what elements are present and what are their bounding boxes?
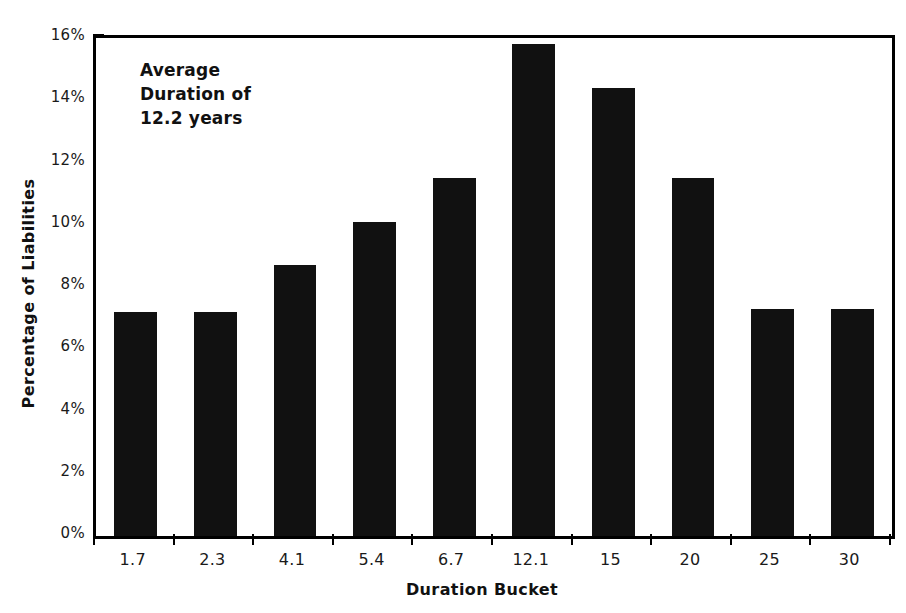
bar <box>274 265 317 536</box>
y-axis-tick-label: 8% <box>61 275 85 293</box>
bar <box>194 312 237 536</box>
x-axis-tick-mark <box>650 534 652 545</box>
annotation-line: 12.2 years <box>140 106 251 130</box>
bar <box>353 222 396 536</box>
x-axis-tick-mark <box>173 534 175 545</box>
y-axis-tick-label: 12% <box>51 151 85 169</box>
x-axis-tick-label: 20 <box>680 550 701 569</box>
annotation-line: Duration of <box>140 82 251 106</box>
x-axis-tick-mark <box>252 534 254 545</box>
x-axis-tick-label: 6.7 <box>438 550 464 569</box>
bar <box>433 178 476 536</box>
bar <box>512 44 555 536</box>
x-axis-tick-label: 15 <box>600 550 621 569</box>
annotation-line: Average <box>140 58 251 82</box>
y-axis-tick-label: 4% <box>61 400 85 418</box>
x-axis-tick-mark <box>332 534 334 545</box>
bar <box>114 312 157 536</box>
x-axis-tick-mark <box>411 534 413 545</box>
y-axis-tick-label: 14% <box>51 88 85 106</box>
x-axis-tick-label: 4.1 <box>279 550 305 569</box>
bar-chart-figure: Percentage of Liabilities 0%2%4%6%8%10%1… <box>0 0 906 613</box>
x-axis-tick-mark <box>571 534 573 545</box>
x-axis-tick-mark <box>93 534 95 545</box>
x-axis-tick-mark <box>730 534 732 545</box>
x-axis-tick-label: 2.3 <box>199 550 225 569</box>
y-axis-tick-label: 6% <box>61 337 85 355</box>
y-axis-tick-label: 0% <box>61 524 85 542</box>
x-axis-tick-mark <box>889 534 891 545</box>
x-axis-tick-label: 12.1 <box>512 550 549 569</box>
x-axis-title: Duration Bucket <box>0 580 906 599</box>
y-axis-tick-label: 2% <box>61 462 85 480</box>
y-axis-tick-label: 10% <box>51 213 85 231</box>
y-axis-tick-labels: 0%2%4%6%8%10%12%14%16% <box>30 0 85 613</box>
x-axis-tick-mark <box>491 534 493 545</box>
bar <box>672 178 715 536</box>
x-axis-tick-label: 30 <box>839 550 860 569</box>
x-axis-tick-label: 25 <box>759 550 780 569</box>
bar <box>831 309 874 536</box>
average-duration-annotation: AverageDuration of12.2 years <box>140 58 251 130</box>
y-axis-tick-label: 16% <box>51 26 85 44</box>
x-axis-tick-label: 1.7 <box>120 550 146 569</box>
x-axis-tick-label: 5.4 <box>358 550 384 569</box>
bar <box>592 88 635 536</box>
bar <box>751 309 794 536</box>
x-axis-tick-mark <box>809 534 811 545</box>
